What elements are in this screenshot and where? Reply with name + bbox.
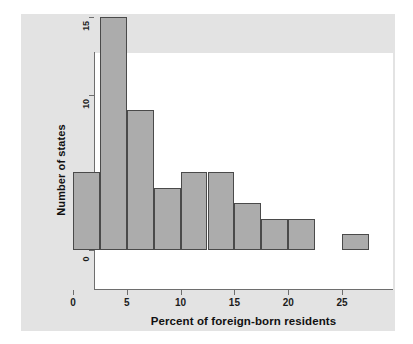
- x-tick-label-25: 25: [330, 297, 354, 308]
- histogram-bar: [261, 219, 288, 250]
- x-axis-title: Percent of foreign-born residents: [94, 315, 393, 327]
- histogram-bar: [181, 172, 208, 250]
- histogram-bar: [234, 203, 261, 250]
- x-axis-line: [94, 289, 393, 290]
- x-tick-label-20: 20: [276, 297, 300, 308]
- x-tick-15: [234, 290, 235, 295]
- histogram-bar: [127, 110, 154, 250]
- histogram-bar: [342, 234, 369, 250]
- y-tick-label-0: 0: [81, 249, 91, 269]
- y-tick-label-10: 10: [81, 94, 91, 114]
- histogram-bar: [208, 172, 235, 250]
- y-axis-line: [94, 52, 95, 290]
- x-tick-20: [288, 290, 289, 295]
- x-tick-label-10: 10: [169, 297, 193, 308]
- histogram-bar: [100, 17, 127, 250]
- histogram-bar: [154, 188, 181, 250]
- histogram-figure: 051015 0510152025 Number of states Perce…: [0, 0, 413, 344]
- figure-panel: 051015 0510152025 Number of states Perce…: [21, 14, 395, 331]
- x-tick-10: [181, 290, 182, 295]
- histogram-bar: [288, 219, 315, 250]
- x-tick-5: [127, 290, 128, 295]
- x-tick-0: [73, 290, 74, 295]
- x-tick-label-0: 0: [61, 297, 85, 308]
- y-axis-title: Number of states: [55, 100, 67, 240]
- x-tick-label-5: 5: [115, 297, 139, 308]
- x-tick-25: [342, 290, 343, 295]
- histogram-bar: [73, 172, 100, 250]
- x-tick-label-15: 15: [222, 297, 246, 308]
- y-tick-label-15: 15: [81, 16, 91, 36]
